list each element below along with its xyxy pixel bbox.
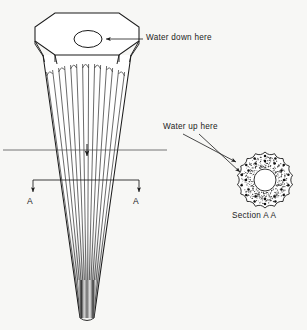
stipple-dot xyxy=(254,191,255,192)
stipple-dot xyxy=(277,184,278,185)
stipple-dot xyxy=(277,190,278,191)
stipple-dot xyxy=(255,166,256,167)
stipple-dot xyxy=(272,158,273,159)
stipple-dot xyxy=(260,157,261,158)
stipple-dot xyxy=(250,196,251,197)
stipple-dot xyxy=(280,185,281,186)
stipple-dot xyxy=(274,192,275,193)
fluted-cone-body xyxy=(35,13,139,321)
stipple-dot xyxy=(273,168,274,169)
label-water-up: Water up here xyxy=(163,122,218,131)
flute-passage-dot xyxy=(247,169,250,172)
stipple-dot xyxy=(265,165,266,166)
section-central-bore xyxy=(254,169,276,191)
flute-passage-dot xyxy=(273,162,276,165)
stipple-dot xyxy=(250,193,251,194)
stipple-dot xyxy=(256,190,257,191)
stipple-dot xyxy=(265,166,266,167)
stipple-dot xyxy=(257,190,258,191)
stipple-dot xyxy=(263,193,264,194)
stipple-dot xyxy=(278,182,279,183)
stipple-dot xyxy=(252,189,253,190)
stipple-dot xyxy=(263,203,264,204)
stipple-dot xyxy=(269,197,270,198)
stipple-dot xyxy=(268,202,269,203)
stipple-dot xyxy=(268,166,269,167)
flute-passage-dot xyxy=(287,173,290,176)
stipple-dot xyxy=(280,183,281,184)
stipple-dot xyxy=(259,198,260,199)
stipple-dot xyxy=(259,165,260,166)
stipple-dot xyxy=(249,162,250,163)
stipple-dot xyxy=(277,174,278,175)
stipple-dot xyxy=(254,165,255,166)
stipple-dot xyxy=(276,175,277,176)
stipple-dot xyxy=(267,163,268,164)
stipple-dot xyxy=(259,191,260,192)
stipple-dot xyxy=(276,172,277,173)
stipple-dot xyxy=(278,181,279,182)
stipple-dot xyxy=(270,160,271,161)
stipple-dot xyxy=(269,199,270,200)
stipple-dot xyxy=(251,183,252,184)
stipple-dot xyxy=(252,188,253,189)
stipple-dot xyxy=(282,174,283,175)
stipple-dot xyxy=(248,166,249,167)
stipple-dot xyxy=(250,191,251,192)
stipple-dot xyxy=(276,197,277,198)
flute-passage-dot xyxy=(274,200,277,203)
stipple-dot xyxy=(274,194,275,195)
stipple-dot xyxy=(260,168,261,169)
stipple-dot xyxy=(280,163,281,164)
stipple-dot xyxy=(259,195,260,196)
stipple-dot xyxy=(271,200,272,201)
stipple-dot xyxy=(260,199,261,200)
stipple-dot xyxy=(244,171,245,172)
stipple-dot xyxy=(242,183,243,184)
stipple-dot xyxy=(248,192,249,193)
stipple-dot xyxy=(269,162,270,163)
stipple-dot xyxy=(278,180,279,181)
flute-passage-dot xyxy=(240,184,243,187)
stipple-dot xyxy=(281,176,282,177)
flute-passage-dot xyxy=(264,155,267,158)
stipple-dot xyxy=(247,184,248,185)
stipple-dot xyxy=(252,198,253,199)
stipple-dot xyxy=(278,165,279,166)
stipple-dot xyxy=(260,163,261,164)
stipple-dot xyxy=(276,161,277,162)
stipple-dot xyxy=(271,157,272,158)
stipple-dot xyxy=(257,193,258,194)
stipple-dot xyxy=(281,196,282,197)
stipple-dot xyxy=(259,162,260,163)
stipple-dot xyxy=(259,202,260,203)
stipple-dot xyxy=(281,191,282,192)
stipple-dot xyxy=(279,180,280,181)
stipple-dot xyxy=(253,190,254,191)
stipple-dot xyxy=(278,191,279,192)
stipple-dot xyxy=(253,188,254,189)
stipple-dot xyxy=(249,181,250,182)
stipple-dot xyxy=(244,173,245,174)
cone-tip-shading xyxy=(78,280,96,318)
stipple-dot xyxy=(284,190,285,191)
stipple-dot xyxy=(245,172,246,173)
diagram-canvas: Water down here Water up here Section A … xyxy=(0,0,307,330)
stipple-dot xyxy=(270,158,271,159)
stipple-dot xyxy=(275,188,276,189)
stipple-dot xyxy=(279,166,280,167)
stipple-dot xyxy=(251,173,252,174)
stipple-dot xyxy=(283,170,284,171)
stipple-dot xyxy=(244,179,245,180)
section-marker-label-right: A xyxy=(133,196,139,206)
stipple-dot xyxy=(250,163,251,164)
stipple-dot xyxy=(276,195,277,196)
stipple-dot xyxy=(286,180,287,181)
stipple-dot xyxy=(265,196,266,197)
stipple-dot xyxy=(250,185,251,186)
stipple-dot xyxy=(253,163,254,164)
stipple-dot xyxy=(245,181,246,182)
stipple-dot xyxy=(279,170,280,171)
stipple-dot xyxy=(280,181,281,182)
stipple-dot xyxy=(286,185,287,186)
